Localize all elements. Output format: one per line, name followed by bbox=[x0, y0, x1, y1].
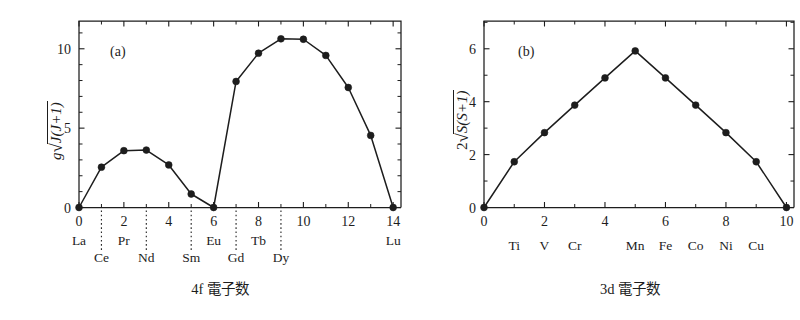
element-label-a-Sm: Sm bbox=[182, 250, 201, 265]
element-label-b-Cr: Cr bbox=[568, 238, 582, 253]
y-label-inner-b: S(S+1) bbox=[453, 90, 471, 135]
element-label-a-Pr: Pr bbox=[118, 233, 131, 248]
x-tick-label-a-7: 14 bbox=[386, 214, 400, 229]
x-axis-title-b: 3d 電子数 bbox=[540, 277, 720, 298]
element-label-b-Ni: Ni bbox=[719, 238, 733, 253]
x-axis-title-a: 4f 電子数 bbox=[120, 277, 320, 298]
data-point-b-7 bbox=[692, 102, 699, 109]
element-label-a-Nd: Nd bbox=[138, 250, 155, 265]
x-tick-label-a-1: 2 bbox=[120, 214, 127, 229]
y-tick-label-a-0: 0 bbox=[64, 201, 71, 216]
data-point-a-3 bbox=[143, 147, 150, 154]
x-tick-label-a-0: 0 bbox=[76, 214, 83, 229]
data-point-a-7 bbox=[233, 78, 240, 85]
data-point-a-1 bbox=[98, 164, 105, 171]
y-label-prefix-b: 2 bbox=[454, 143, 470, 151]
y-axis-label-a: g√J(J+1) bbox=[46, 101, 66, 160]
data-point-b-0 bbox=[481, 204, 488, 211]
x-tick-label-b-0: 0 bbox=[481, 214, 488, 229]
element-label-a-Lu: Lu bbox=[386, 233, 401, 248]
data-point-a-13 bbox=[367, 132, 374, 139]
element-label-b-Mn: Mn bbox=[626, 238, 645, 253]
data-point-a-12 bbox=[345, 84, 352, 91]
x-tick-label-a-6: 12 bbox=[341, 214, 355, 229]
chart-a-canvas: 051002468101214LaPrEuTbLuCeNdSmGdDy(a) bbox=[0, 0, 400, 320]
element-label-a-La: La bbox=[72, 233, 86, 248]
element-label-b-Ti: Ti bbox=[508, 238, 520, 253]
y-label-inner-a: J(J+1) bbox=[47, 101, 65, 144]
panel-tag-b: (b) bbox=[518, 44, 535, 60]
data-point-a-14 bbox=[390, 204, 397, 211]
data-point-a-9 bbox=[278, 35, 285, 42]
data-series-line-b bbox=[484, 51, 786, 208]
element-label-b-Cu: Cu bbox=[748, 238, 764, 253]
data-point-a-2 bbox=[120, 147, 127, 154]
data-point-b-4 bbox=[602, 74, 609, 81]
data-point-b-6 bbox=[662, 74, 669, 81]
element-label-a-Ce: Ce bbox=[94, 250, 109, 265]
panel-tag-a: (a) bbox=[110, 44, 126, 60]
y-axis-label-b: 2√S(S+1) bbox=[452, 90, 472, 150]
plot-frame-a bbox=[79, 21, 401, 208]
data-point-b-10 bbox=[783, 204, 790, 211]
y-label-prefix-a: g bbox=[48, 153, 64, 161]
x-tick-label-b-4: 8 bbox=[722, 214, 729, 229]
data-series-line-a bbox=[79, 39, 393, 208]
data-point-b-3 bbox=[571, 102, 578, 109]
data-point-a-0 bbox=[76, 204, 83, 211]
data-point-b-5 bbox=[632, 47, 639, 54]
x-tick-label-a-3: 6 bbox=[210, 214, 217, 229]
chart-b-canvas: 02460246810TiVCrMnFeCoNiCu(b) bbox=[400, 0, 800, 320]
element-label-b-Fe: Fe bbox=[659, 238, 673, 253]
element-label-a-Eu: Eu bbox=[206, 233, 221, 248]
radical-sign-a: √ bbox=[47, 143, 67, 152]
data-point-a-10 bbox=[300, 36, 307, 43]
x-tick-label-a-4: 8 bbox=[255, 214, 262, 229]
data-point-a-11 bbox=[322, 52, 329, 59]
chart-panel-a: 051002468101214LaPrEuTbLuCeNdSmGdDy(a) g… bbox=[0, 0, 400, 320]
data-point-b-8 bbox=[723, 129, 730, 136]
x-tick-label-a-2: 4 bbox=[165, 214, 172, 229]
data-point-b-9 bbox=[753, 158, 760, 165]
figure-container: 051002468101214LaPrEuTbLuCeNdSmGdDy(a) g… bbox=[0, 0, 800, 320]
data-point-a-4 bbox=[165, 162, 172, 169]
y-tick-label-b-3: 6 bbox=[469, 42, 476, 57]
element-label-b-V: V bbox=[540, 238, 550, 253]
data-point-a-8 bbox=[255, 50, 262, 57]
y-tick-label-b-0: 0 bbox=[469, 201, 476, 216]
x-tick-label-b-1: 2 bbox=[541, 214, 548, 229]
element-label-b-Co: Co bbox=[688, 238, 704, 253]
data-point-a-6 bbox=[210, 204, 217, 211]
data-point-b-2 bbox=[541, 129, 548, 136]
data-point-b-1 bbox=[511, 158, 518, 165]
element-label-a-Tb: Tb bbox=[251, 233, 266, 248]
element-label-a-Dy: Dy bbox=[273, 250, 290, 265]
data-point-a-5 bbox=[188, 191, 195, 198]
x-tick-label-b-3: 6 bbox=[662, 214, 669, 229]
radical-sign-b: √ bbox=[453, 133, 473, 142]
x-tick-label-b-5: 10 bbox=[779, 214, 793, 229]
chart-panel-b: 02460246810TiVCrMnFeCoNiCu(b) 2√S(S+1) 3… bbox=[400, 0, 800, 320]
y-tick-label-a-2: 10 bbox=[57, 42, 71, 57]
element-label-a-Gd: Gd bbox=[228, 250, 245, 265]
x-tick-label-a-5: 10 bbox=[296, 214, 310, 229]
x-tick-label-b-2: 4 bbox=[601, 214, 608, 229]
